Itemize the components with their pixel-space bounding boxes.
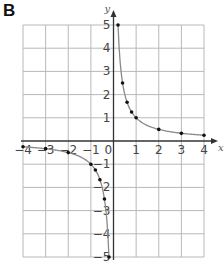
x-axis-arrow-icon [211,138,218,144]
data-point [130,110,134,114]
data-point [103,197,107,201]
y-tick-label: 4 [103,41,111,55]
data-point [157,128,161,132]
x-tick-label: 4 [200,143,208,157]
y-tick-label: 5 [103,18,111,32]
x-tick-label: 0 [105,143,113,157]
data-point [134,116,138,120]
data-point [125,100,129,104]
reciprocal-function-graph: xy−4−3−2−10123454321−1−2−3−4−5 [0,0,224,267]
x-tick-label: 2 [155,143,163,157]
data-point [66,151,70,155]
x-tick-label: 1 [132,143,140,157]
data-point [202,133,206,137]
y-tick-label: 3 [103,64,111,78]
y-tick-label: −3 [93,204,111,218]
y-axis-label: y [104,3,111,14]
y-tick-label: 2 [103,88,111,102]
data-point [21,145,25,149]
x-tick-label: 3 [178,143,186,157]
curve-positive-branch [118,25,204,135]
x-tick-label: −1 [82,143,100,157]
y-axis-arrow-icon [111,10,117,17]
data-point [121,81,125,85]
data-point [98,178,102,182]
data-point [107,255,111,259]
data-point [180,132,184,136]
data-point [44,147,48,151]
x-axis-label: x [218,142,224,153]
data-point [89,162,93,166]
data-point [94,168,98,172]
data-point [116,23,120,27]
y-tick-label: 1 [103,111,111,125]
